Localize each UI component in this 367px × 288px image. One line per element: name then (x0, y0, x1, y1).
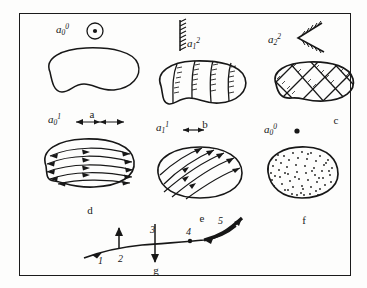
symbol-sup: 2 (196, 36, 200, 45)
profile-marker-4-label: 4 (186, 226, 191, 237)
symbol-sup: 0 (273, 122, 277, 131)
short-double-arrow-icon (178, 123, 218, 139)
panel-c-symbol: a22 (268, 32, 281, 47)
profile-marker-1-label: 1 (98, 255, 103, 266)
symbol-sup: 1 (57, 112, 61, 121)
panel-e-body (148, 142, 254, 206)
panel-f-symbol: a00 (264, 122, 277, 137)
profile-marker-5-label: 5 (218, 215, 223, 226)
panel-a-symbol: a00 (56, 22, 69, 37)
converging-wedge-icon (284, 21, 342, 57)
symbol-sup: 2 (277, 32, 281, 41)
panel-d-symbol: a01 (48, 112, 61, 127)
symbol-sup: 0 (65, 22, 69, 31)
solid-dot-icon (290, 124, 310, 140)
panel-b-symbol: a12 (187, 36, 200, 51)
figure-root: a00 a a12 (0, 0, 367, 288)
panel-b-body (147, 56, 257, 118)
diverging-arrow-icon (72, 115, 134, 131)
profile-marker-3-label: 3 (150, 224, 155, 235)
panel-d-body (32, 134, 146, 200)
panel-f-caption: f (292, 214, 316, 226)
panel-f-body (260, 142, 346, 206)
panel-c-caption: c (324, 114, 348, 126)
panel-g-profile (78, 206, 268, 268)
panel-e-symbol: a11 (156, 120, 169, 135)
circle-dot-icon (83, 21, 113, 41)
panel-a-body (34, 44, 152, 106)
panel-c-body (264, 58, 360, 114)
profile-marker-2-label: 2 (118, 253, 123, 264)
panel-g-caption: g (144, 264, 168, 276)
symbol-sup: 1 (165, 120, 169, 129)
